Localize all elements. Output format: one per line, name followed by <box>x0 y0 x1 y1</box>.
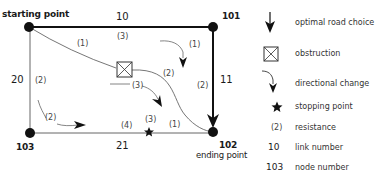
node-start <box>24 22 34 32</box>
legend-star-icon <box>272 102 283 113</box>
resistance-directional-obstruction: (3) <box>132 82 143 90</box>
node-101-number: 101 <box>222 12 240 21</box>
node-102-number: 102 <box>219 141 237 150</box>
legend-directional-text: directional change <box>295 80 369 88</box>
resistance-link-21: (4) <box>121 122 132 130</box>
legend-optimal-road-text: optimal road choice <box>295 19 374 27</box>
obstruction-icon <box>117 62 132 77</box>
legend-link-key: 10 <box>268 143 279 152</box>
resistance-directional-101: (1) <box>189 41 200 49</box>
legend-obstruction-icon <box>264 47 278 61</box>
node-103 <box>25 128 35 138</box>
legend-node-key: 103 <box>266 163 283 172</box>
resistance-diagonal: (1) <box>77 40 88 48</box>
resistance-stopping-point: (3) <box>145 116 156 124</box>
legend-link-text: link number <box>295 144 343 152</box>
node-103-number: 103 <box>16 143 34 152</box>
legend-optimal-road-icon <box>265 12 275 33</box>
legend-resistance-key: (2) <box>271 124 282 132</box>
diagonal-route <box>29 27 116 68</box>
legend-node-text: node number <box>295 164 349 172</box>
link-21-number: 21 <box>116 141 129 151</box>
link-10-number: 10 <box>116 12 129 22</box>
node-101 <box>208 22 218 32</box>
resistance-link-20: (2) <box>35 77 46 85</box>
directional-change-icon <box>160 41 187 68</box>
legend-obstruction-text: obstruction <box>295 50 340 58</box>
node-start-label: starting point <box>2 10 69 19</box>
legend-stopping-text: stopping point <box>295 103 353 111</box>
resistance-obstruction-curve: (2) <box>163 70 174 78</box>
star-icon <box>144 127 154 137</box>
legend-resistance-text: resistance <box>295 124 336 132</box>
resistance-link-10: (3) <box>117 33 128 41</box>
link-11-number: 11 <box>220 75 233 85</box>
node-102 <box>208 127 218 137</box>
legend-directional-change-icon <box>262 71 277 93</box>
resistance-directional-103: (2) <box>45 114 56 122</box>
link-20-number: 20 <box>11 75 24 85</box>
node-102-label: ending point <box>196 151 247 160</box>
resistance-link-21-end: (1) <box>169 121 180 129</box>
resistance-link-11: (2) <box>197 82 208 90</box>
